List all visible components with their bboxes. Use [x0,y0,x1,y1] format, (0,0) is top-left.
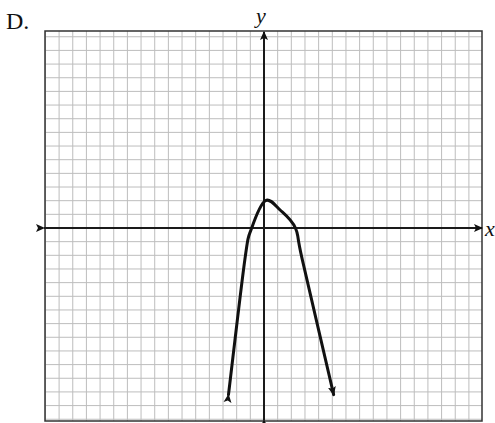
parabola-curve [228,200,333,395]
coordinate-grid-chart [0,0,495,423]
